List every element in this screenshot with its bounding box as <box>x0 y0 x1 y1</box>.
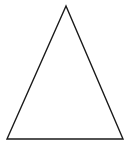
triangle-shape <box>7 6 123 139</box>
diagram-canvas <box>0 0 130 149</box>
